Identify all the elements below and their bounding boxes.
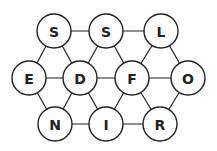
letter-node-o: O <box>171 61 205 95</box>
letter-node-i: I <box>89 107 123 141</box>
letter-node-e: E <box>12 61 46 95</box>
svg-text:L: L <box>157 24 166 40</box>
letter-node-s: S <box>37 14 71 48</box>
letter-node-r: R <box>143 107 177 141</box>
svg-text:D: D <box>74 71 86 87</box>
svg-text:E: E <box>24 71 34 87</box>
letter-node-f: F <box>115 61 149 95</box>
letter-node-d: D <box>63 61 97 95</box>
svg-text:F: F <box>127 71 137 87</box>
svg-text:S: S <box>101 24 111 40</box>
svg-text:N: N <box>49 117 61 133</box>
svg-text:I: I <box>103 117 108 133</box>
svg-text:O: O <box>182 71 194 87</box>
svg-text:S: S <box>49 24 59 40</box>
letter-grid-diagram: SSLEDFONIR <box>0 0 217 151</box>
letter-node-l: L <box>144 14 178 48</box>
letter-node-n: N <box>38 107 72 141</box>
letter-node-s: S <box>89 14 123 48</box>
svg-text:R: R <box>155 117 166 133</box>
